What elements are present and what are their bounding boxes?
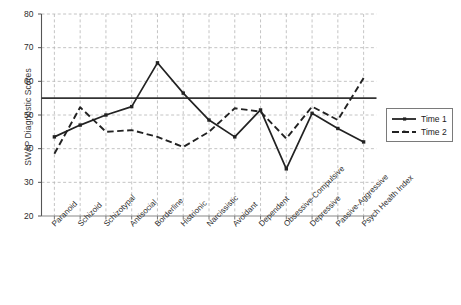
data-point-marker [207,118,210,121]
data-point-marker [285,167,288,170]
y-tick-label: 40 [12,143,34,153]
data-point-marker [310,112,313,115]
data-series [53,61,366,170]
swap-diagnostic-scores-chart: SWAP Diagnostic Scores 20304050607080 Pa… [0,0,461,305]
data-point-marker [259,108,262,111]
y-tick-label: 50 [12,110,34,120]
y-tick-label: 60 [12,76,34,86]
legend-label: Time 1 [421,114,447,124]
chart-legend: Time 1Time 2 [386,108,453,142]
data-point-marker [104,113,107,116]
data-point-marker [53,135,56,138]
legend-item-time-2: Time 2 [391,125,447,138]
data-point-marker [78,123,81,126]
data-point-marker [362,140,365,143]
data-point-marker [130,105,133,108]
data-point-marker [336,127,339,130]
data-point-marker [182,91,185,94]
y-tick-label: 30 [12,177,34,187]
y-tick-label: 70 [12,42,34,52]
y-tick-label: 20 [12,211,34,221]
solid-line-icon [391,114,417,124]
series-line-time-1 [54,63,363,169]
y-tick-label: 80 [12,9,34,19]
data-point-marker [233,135,236,138]
dashed-line-icon [391,127,417,137]
legend-label: Time 2 [421,127,447,137]
plot-area [0,0,461,305]
legend-item-time-1: Time 1 [391,112,447,125]
data-point-marker [156,61,159,64]
